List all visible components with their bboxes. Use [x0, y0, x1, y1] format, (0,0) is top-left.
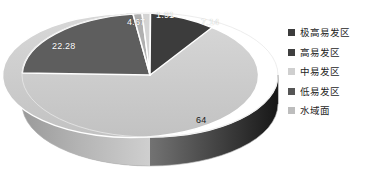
slice-value-label-4: 1.91 [156, 10, 174, 20]
legend-swatch-icon-2 [288, 68, 295, 75]
legend-label-3: 低易发区 [300, 87, 340, 97]
legend-label-2: 中易发区 [300, 67, 340, 77]
legend-item-0[interactable]: 极高易发区 [288, 28, 375, 38]
legend-item-3[interactable]: 低易发区 [288, 87, 375, 97]
legend-item-4[interactable]: 水域面 [288, 106, 375, 116]
pie-chart-graphic [0, 0, 290, 187]
legend-swatch-icon-4 [288, 107, 295, 114]
pie-chart: 7.14 64 22.28 4.67 1.91 极高易发区 高易发区 中易发区 … [0, 0, 375, 187]
legend-item-2[interactable]: 中易发区 [288, 67, 375, 77]
legend-swatch-icon-0 [288, 29, 295, 36]
legend-label-0: 极高易发区 [300, 28, 350, 38]
legend-swatch-icon-1 [288, 49, 295, 56]
slice-value-label-2: 22.28 [52, 41, 76, 51]
legend-label-1: 高易发区 [300, 48, 340, 58]
slice-value-label-3: 4.67 [127, 17, 145, 27]
chart-legend: 极高易发区 高易发区 中易发区 低易发区 水域面 [288, 28, 375, 116]
legend-item-1[interactable]: 高易发区 [288, 48, 375, 58]
slice-value-label-0: 7.14 [201, 17, 219, 27]
slice-value-label-1: 64 [196, 115, 206, 125]
legend-swatch-icon-3 [288, 88, 295, 95]
legend-label-4: 水域面 [300, 106, 330, 116]
